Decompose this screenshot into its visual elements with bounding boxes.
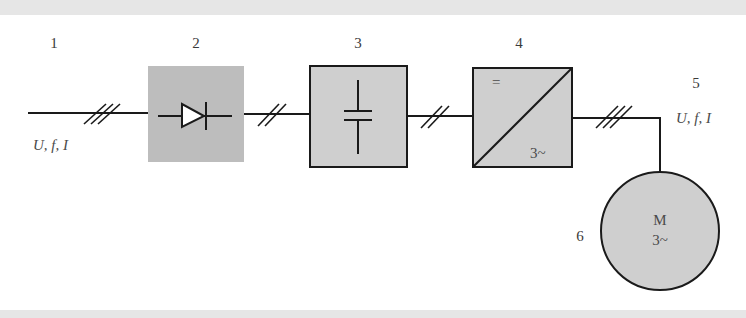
input-quantities-label: U, f, I	[33, 137, 69, 153]
input-line	[28, 104, 148, 124]
dc-line-3-4	[407, 106, 473, 128]
inverter-block: = 3~	[473, 68, 572, 167]
motor-block: M 3~	[601, 172, 719, 290]
label-4: 4	[515, 35, 523, 51]
label-3: 3	[354, 35, 362, 51]
dc-link-block	[310, 66, 407, 167]
label-1: 1	[50, 35, 58, 51]
label-2: 2	[192, 35, 200, 51]
output-quantities-label: U, f, I	[676, 110, 712, 126]
block-diagram: 1 2 3 4 5 6 U, f, I U, f, I	[0, 0, 746, 318]
ac-symbol: 3~	[530, 145, 546, 161]
motor-icon	[601, 172, 719, 290]
motor-label: M	[653, 212, 666, 228]
label-6: 6	[576, 228, 584, 244]
rectifier-block	[148, 66, 244, 162]
dc-symbol: =	[492, 74, 500, 90]
output-line	[572, 106, 660, 171]
label-5: 5	[692, 75, 700, 91]
motor-phase-label: 3~	[652, 232, 668, 248]
dc-line-2-3	[244, 104, 310, 126]
